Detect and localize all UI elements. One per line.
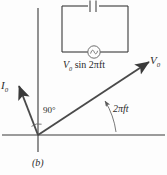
capacitor-icon [90, 1, 96, 13]
ac-source-icon [88, 46, 100, 58]
source-label-expr: sin 2πft [72, 59, 105, 70]
voltage-phasor-symbol: V [150, 54, 157, 66]
figure-phasor-capacitor: V0 sin 2πft V0 I0 90° 2πft (b) [0, 0, 167, 175]
voltage-phasor-label: V0 [150, 55, 160, 69]
rotation-angle-label: 2πft [113, 104, 129, 114]
voltage-phasor-sub: 0 [157, 61, 160, 68]
current-phasor-sub: 0 [5, 86, 8, 93]
current-phasor-label: I0 [1, 80, 8, 94]
current-phasor-arrow [19, 86, 38, 135]
figure-canvas [0, 0, 167, 175]
axes [2, 8, 165, 152]
voltage-phasor-arrow [38, 62, 149, 135]
angle-90-label: 90° [43, 106, 56, 115]
circuit-box [62, 6, 128, 52]
source-label: V0 sin 2πft [63, 60, 105, 72]
figure-caption: (b) [32, 158, 44, 168]
